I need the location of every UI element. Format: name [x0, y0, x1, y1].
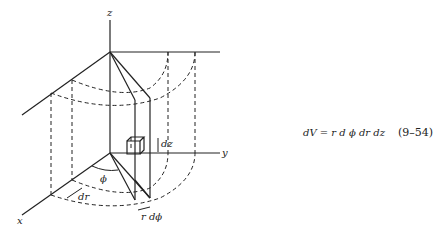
equation: dV = r d ϕ dr dz	[303, 127, 386, 138]
dr-label: dr	[78, 191, 90, 202]
cylindrical-volume-diagram: z y x ϕ dr dz r dϕ dV = r d ϕ dr dz (9–5…	[0, 0, 437, 239]
y-label: y	[221, 147, 228, 158]
equation-number: (9–54)	[398, 126, 433, 139]
volume-element-front	[127, 141, 140, 154]
top-x-edge	[22, 52, 110, 115]
phi-arc	[92, 166, 118, 171]
rdphi-label: r dϕ	[141, 211, 162, 222]
phi-label: ϕ	[100, 173, 107, 184]
rdphi-arrow	[138, 207, 150, 210]
z-label: z	[106, 7, 113, 18]
x-label: x	[17, 215, 23, 226]
dz-label: dz	[161, 138, 173, 149]
x-axis	[22, 153, 110, 215]
